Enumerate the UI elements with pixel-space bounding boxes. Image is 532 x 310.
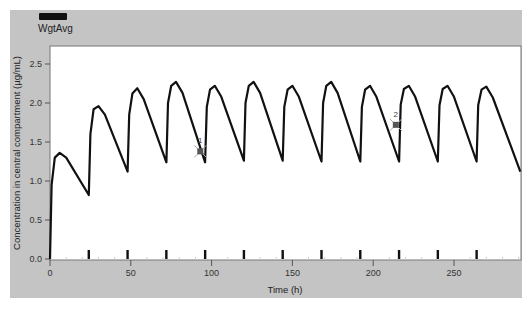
y-axis: 0.00.51.01.52.02.5 (29, 59, 50, 264)
y-tick-label: 0.5 (29, 215, 42, 225)
line-chart: 0.00.51.01.52.02.5 050100150200250 12 Ti… (0, 0, 532, 310)
x-tick-label: 50 (126, 268, 136, 278)
x-axis-title: Time (h) (267, 284, 302, 295)
y-axis-title: Concentration in central compartment (µg… (11, 56, 22, 250)
y-tick-label: 0.0 (29, 254, 42, 264)
annotation-marker[interactable] (197, 148, 203, 154)
x-tick-label: 150 (285, 268, 300, 278)
y-tick-label: 1.5 (29, 137, 42, 147)
x-tick-label: 250 (446, 268, 461, 278)
annotation-marker[interactable] (393, 122, 399, 128)
y-tick-label: 1.0 (29, 176, 42, 186)
x-tick-label: 100 (204, 268, 219, 278)
y-tick-label: 2.0 (29, 98, 42, 108)
annotation-label: 1 (198, 136, 203, 145)
y-tick-label: 2.5 (29, 59, 42, 69)
x-tick-label: 200 (366, 268, 381, 278)
annotation-label: 2 (394, 110, 399, 119)
x-tick-label: 0 (47, 268, 52, 278)
